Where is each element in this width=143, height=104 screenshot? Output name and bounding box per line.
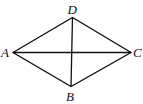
vertex-label-a: A — [0, 45, 9, 60]
vertex-label-d: D — [67, 2, 78, 17]
diagonal-db — [71, 18, 73, 87]
rhombus-diagram: D A C B — [0, 0, 143, 104]
vertex-label-b: B — [66, 89, 74, 104]
vertex-label-c: C — [133, 45, 142, 60]
